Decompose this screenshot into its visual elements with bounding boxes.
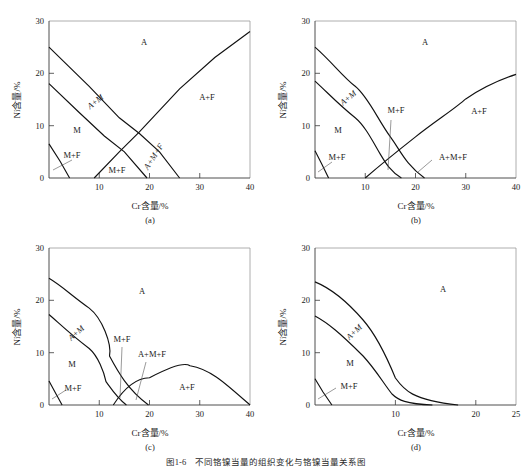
- panel-b-xtick-30: 30: [462, 182, 471, 192]
- panel-a-ytick-10: 10: [36, 121, 45, 131]
- panel-c-label-MF-mid: M+F: [113, 334, 130, 344]
- panel-a-x-axis-title: Cr含量/%: [132, 200, 170, 211]
- panel-a-label-M: M: [73, 125, 81, 135]
- panel-a-ferrite-boundary: [94, 32, 250, 179]
- panel-d-curves: [315, 282, 458, 405]
- panel-a-label-MF-left: M+F: [63, 150, 80, 160]
- panel-a-ytick-20: 20: [36, 68, 45, 78]
- panel-b-ytick-0: 0: [306, 173, 310, 183]
- panel-b-label-MF-left: M+F: [328, 152, 345, 162]
- panel-b-ytick-10: 10: [302, 121, 311, 131]
- panel-b-y-axis-title: Ni含量/%: [277, 81, 288, 119]
- panel-a-ytick-30: 30: [36, 16, 45, 26]
- panel-c-xtick-40: 40: [246, 409, 255, 419]
- panel-a-mf-leader: [53, 160, 72, 170]
- panel-c-ytick-10: 10: [36, 348, 45, 358]
- panel-b-xtick-20: 20: [411, 182, 420, 192]
- panel-c-ytick-20: 20: [36, 295, 45, 305]
- panel-b-label-A: A: [422, 37, 429, 47]
- panel-c-region-labels: A A+M M M+F M+F A+M+F A+F: [64, 286, 195, 393]
- panel-b-ytick-30: 30: [302, 16, 311, 26]
- panel-d-caption: (d): [411, 442, 421, 452]
- panel-b-ytick-20: 20: [302, 68, 311, 78]
- panel-a-label-AMF: A+M+F: [141, 141, 166, 172]
- panel-a-label-AM: A+M: [84, 92, 106, 112]
- panel-c-martensite-boundary: [49, 315, 126, 406]
- panel-d-y-ticks: 0 10 20 30: [302, 243, 321, 410]
- panel-d-ytick-0: 0: [306, 400, 310, 410]
- panel-b-xtick-10: 10: [361, 182, 370, 192]
- panel-c-xtick-10: 10: [95, 409, 104, 419]
- panel-b-mf-small-line: [315, 151, 329, 178]
- panel-a-region-labels: A A+M M M+F M+F A+M+F A+F: [63, 37, 215, 175]
- panel-a-xtick-40: 40: [246, 182, 255, 192]
- panel-a-y-axis-title: Ni含量/%: [11, 81, 22, 119]
- panel-d-label-MF: M+F: [340, 381, 357, 391]
- panel-c-mf-small-line: [49, 381, 62, 405]
- panel-a-xtick-10: 10: [95, 182, 104, 192]
- phase-diagram-figure: 10 20 30 40 0 10 20 30: [0, 0, 532, 467]
- panel-c-x-ticks: 10 20 30 40: [95, 400, 254, 419]
- panel-b-x-ticks: 10 20 30 40: [361, 173, 520, 192]
- panel-b-label-M: M: [334, 125, 342, 135]
- panel-c-label-A: A: [139, 286, 146, 296]
- panel-a: 10 20 30 40 0 10 20 30: [0, 0, 266, 230]
- panel-b-label-AMF: A+M+F: [439, 152, 467, 162]
- panel-b-caption: (b): [411, 215, 421, 225]
- panel-d-ytick-30: 30: [302, 243, 311, 253]
- panel-c-label-AF: A+F: [179, 382, 195, 392]
- panel-c-x-axis-title: Cr含量/%: [132, 427, 170, 438]
- panel-b-y-ticks: 0 10 20 30: [302, 16, 321, 183]
- panel-d-ytick-10: 10: [302, 348, 311, 358]
- panel-d-xtick-20: 20: [472, 409, 481, 419]
- panel-d-y-axis-title: Ni含量/%: [277, 308, 288, 346]
- panel-d-martensite-boundary: [315, 316, 432, 405]
- panel-b-amf-leader: [418, 160, 432, 172]
- panel-c-xtick-30: 30: [196, 409, 205, 419]
- panel-a-mf-small-line: [49, 144, 70, 178]
- panel-a-y-ticks: 0 10 20 30: [36, 16, 55, 183]
- panel-b-label-AF: A+F: [471, 106, 487, 116]
- panel-b: 10 20 30 40 0 10 20 30: [266, 0, 532, 230]
- panel-a-caption: (a): [145, 215, 155, 225]
- panel-b-x-axis-title: Cr含量/%: [398, 200, 436, 211]
- panel-a-label-MF-bottom: M+F: [108, 165, 125, 175]
- panel-c-caption: (c): [145, 442, 155, 452]
- figure-caption: 图1-6 不同铬镍当量的组织变化与铬镍当量关系图: [0, 455, 532, 467]
- panel-b-mf-mid-leader: [388, 120, 391, 170]
- panel-c-label-MF-left: M+F: [64, 383, 81, 393]
- panel-a-label-AF: A+F: [199, 92, 215, 102]
- panel-c-mf-mid-leader: [120, 347, 122, 398]
- panel-d-label-A: A: [440, 284, 447, 294]
- panel-c-xtick-20: 20: [145, 409, 154, 419]
- panel-a-ytick-0: 0: [40, 173, 44, 183]
- panel-c-ytick-0: 0: [40, 400, 44, 410]
- panel-a-x-ticks: 10 20 30 40: [95, 173, 254, 192]
- panel-d-label-M: M: [346, 358, 354, 368]
- panel-b-xtick-40: 40: [512, 182, 521, 192]
- panel-d-ytick-20: 20: [302, 295, 311, 305]
- panel-d-xtick-10: 10: [391, 409, 400, 419]
- panel-c: 10 20 30 40 0 10 20 30: [0, 232, 266, 458]
- panel-a-label-A: A: [141, 37, 148, 47]
- panel-b-ferrite-boundary: [365, 74, 516, 178]
- panel-d-x-axis-title: Cr含量/%: [398, 427, 436, 438]
- panel-c-label-AM: A+M: [65, 322, 87, 343]
- panel-c-label-AMF: A+M+F: [138, 349, 166, 359]
- panel-c-label-M: M: [68, 359, 76, 369]
- panel-c-y-axis-title: Ni含量/%: [11, 308, 22, 346]
- panel-c-ytick-30: 30: [36, 243, 45, 253]
- panel-d-xtick-25: 25: [512, 409, 521, 419]
- panel-d: 10 20 25 0 10 20 30 A A+M M: [266, 232, 532, 458]
- panel-b-label-MF-mid: M+F: [387, 105, 404, 115]
- panel-a-xtick-20: 20: [145, 182, 154, 192]
- panel-a-xtick-30: 30: [196, 182, 205, 192]
